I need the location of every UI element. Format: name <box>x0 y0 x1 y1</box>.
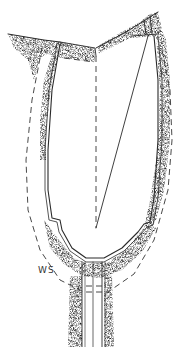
shading <box>8 12 170 347</box>
diagram-figure: WS <box>0 0 176 347</box>
label-ws: WS <box>38 265 55 275</box>
